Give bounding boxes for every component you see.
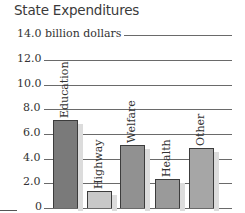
bar-label-highway: Highway: [93, 140, 105, 189]
bar-other: [189, 148, 214, 208]
bar-label-welfare: Welfare: [126, 100, 138, 143]
gridline: [44, 208, 232, 209]
bar-chart-plot: 02.04.06.08.010.012.014.0 billion dollar…: [0, 0, 245, 213]
y-tick-label: 14.0 billion dollars: [17, 28, 121, 40]
y-tick-label: 10.0: [17, 78, 42, 90]
y-tick-label: 2.0: [23, 176, 41, 188]
gridline: [44, 109, 232, 110]
y-tick-label: 6.0: [23, 127, 41, 139]
gridline: [44, 85, 232, 86]
bar-shadow: [214, 152, 219, 211]
y-tick-label: 12.0: [17, 53, 42, 65]
y-tick-label: 8.0: [23, 102, 41, 114]
corner-rule-line: [0, 210, 17, 211]
bar-education: [53, 120, 78, 208]
y-tick-label: 0: [35, 201, 42, 213]
bar-shadow: [112, 195, 117, 211]
bar-welfare: [120, 145, 145, 208]
bar-label-health: Health: [161, 139, 173, 177]
bar-label-education: Education: [59, 61, 71, 118]
bar-shadow: [180, 183, 185, 211]
bar-highway: [87, 191, 112, 208]
gridline: [124, 35, 232, 36]
bar-label-other: Other: [195, 114, 207, 146]
bar-health: [155, 179, 180, 208]
y-tick-label: 4.0: [23, 152, 41, 164]
bar-shadow: [145, 149, 150, 211]
gridline: [44, 60, 232, 61]
bar-shadow: [78, 124, 83, 211]
